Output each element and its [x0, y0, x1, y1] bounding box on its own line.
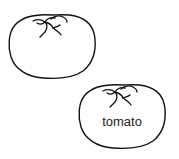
tomato-label: tomato: [77, 115, 167, 129]
tomato-labeled: tomato: [77, 81, 167, 151]
canvas: { "diagram": { "items": [ { "id": "tomat…: [0, 0, 179, 159]
tomato-unlabeled: [7, 11, 97, 81]
tomato-icon: [7, 11, 97, 81]
tomato-outline: [9, 15, 95, 79]
